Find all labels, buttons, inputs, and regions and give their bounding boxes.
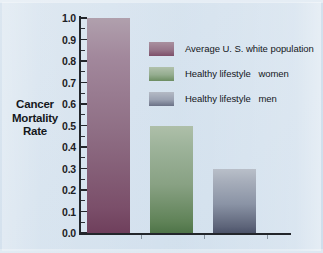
legend-item-healthy-lifestyle-men[interactable]: Healthy lifestyle men — [149, 91, 317, 106]
x-axis-tick — [141, 235, 142, 239]
y-axis-tick-label: 0.3 — [46, 164, 76, 174]
legend-item-label: Average U. S. white population — [185, 43, 314, 54]
legend-item-average-us-white-population[interactable]: Average U. S. white population — [149, 41, 317, 56]
y-axis-tick-label: 0.8 — [46, 56, 76, 66]
legend-swatch-icon — [149, 67, 174, 81]
bar-chart-figure: Cancer Mortality Rate 1.00.90.80.70.60.5… — [0, 0, 323, 253]
bar-healthy-lifestyle-men[interactable] — [213, 169, 256, 234]
bar-healthy-lifestyle-women[interactable] — [150, 126, 193, 234]
y-axis-tick-label: 0.0 — [46, 228, 76, 238]
panel-edge-bottom — [0, 249, 323, 253]
legend-item-label: Healthy lifestyle women — [185, 68, 289, 79]
chart-legend: Average U. S. white population Healthy l… — [149, 41, 317, 116]
legend-swatch-icon — [149, 92, 174, 106]
x-axis-tick — [204, 235, 205, 239]
panel-edge-top — [0, 0, 323, 3]
y-axis-tick-label: 0.6 — [46, 99, 76, 109]
bar-average-us-white-population[interactable] — [87, 18, 130, 233]
y-axis-tick-label: 0.7 — [46, 78, 76, 88]
y-axis-tick-label: 0.5 — [46, 121, 76, 131]
legend-item-healthy-lifestyle-women[interactable]: Healthy lifestyle women — [149, 66, 317, 81]
y-axis-tick-label: 0.2 — [46, 185, 76, 195]
x-axis-tick — [267, 235, 268, 239]
y-axis-tick-label: 0.9 — [46, 35, 76, 45]
legend-swatch-icon — [149, 42, 174, 56]
y-axis-tick-label: 0.1 — [46, 207, 76, 217]
legend-item-label: Healthy lifestyle men — [185, 93, 277, 104]
y-axis-tick-label: 1.0 — [46, 13, 76, 23]
x-axis-line — [79, 233, 291, 235]
y-axis-tick-label: 0.4 — [46, 142, 76, 152]
